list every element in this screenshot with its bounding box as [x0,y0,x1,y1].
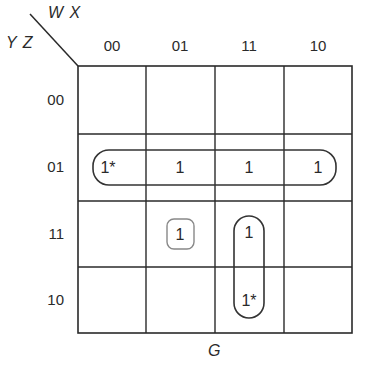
kmap-cell [146,267,214,334]
col-label-10: 10 [284,37,352,54]
kmap-cell: 1 [146,134,214,201]
kmap-cell: 1 [215,199,283,266]
row-label-10: 10 [24,291,64,308]
kmap-cell [284,201,352,268]
col-label-01: 01 [146,37,214,54]
kmap-cell: 1 [284,134,352,201]
kmap-cell: 1* [215,267,283,334]
row-label-11: 11 [24,225,64,242]
row-variables-label: Y Z [6,34,34,52]
function-label: G [208,342,220,360]
kmap-cell: 1* [74,134,142,201]
col-variables-label: W X [48,4,81,22]
row-label-00: 00 [24,91,64,108]
kmap-cell [78,201,146,268]
kmap-cell [215,66,283,133]
kmap-cell [284,66,352,133]
kmap-cell: 1 [215,134,283,201]
kmap-cell [284,267,352,334]
col-label-00: 00 [78,37,146,54]
kmap-cell [78,267,146,334]
row-label-01: 01 [24,158,64,175]
col-label-11: 11 [215,37,283,54]
kmap-cell: 1 [146,201,214,268]
kmap-cell [146,66,214,133]
kmap-cell [78,66,146,133]
